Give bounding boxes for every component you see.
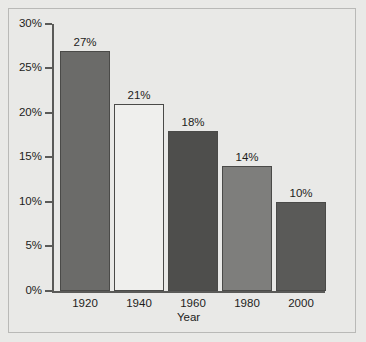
y-tick-25 xyxy=(45,67,52,69)
y-tick-label-0: 0% xyxy=(0,285,42,296)
y-tick-label-5: 5% xyxy=(0,240,42,251)
y-tick-label-10: 10% xyxy=(0,196,42,207)
y-tick-label-20: 20% xyxy=(0,107,42,118)
bar-chart-plot-area: 0% 5% 10% 15% 20% 25% 30% 27% 21% 18% 14… xyxy=(0,0,366,342)
y-tick-30 xyxy=(45,23,52,25)
bar-1980[interactable] xyxy=(222,166,272,291)
x-tick-label-2000: 2000 xyxy=(274,297,328,309)
bar-1920[interactable] xyxy=(60,51,110,291)
y-axis-line xyxy=(52,24,54,293)
bar-value-1980: 14% xyxy=(220,151,274,163)
bar-1960[interactable] xyxy=(168,131,218,291)
bar-value-1940: 21% xyxy=(112,89,166,101)
x-axis-line xyxy=(52,291,325,293)
y-tick-label-30: 30% xyxy=(0,18,42,29)
y-tick-15 xyxy=(45,156,52,158)
bar-1940[interactable] xyxy=(114,104,164,291)
y-tick-label-15: 15% xyxy=(0,151,42,162)
y-tick-20 xyxy=(45,112,52,114)
x-tick-label-1920: 1920 xyxy=(58,297,112,309)
x-tick-label-1940: 1940 xyxy=(112,297,166,309)
chart-screenshot: 0% 5% 10% 15% 20% 25% 30% 27% 21% 18% 14… xyxy=(0,0,366,342)
x-tick-label-1980: 1980 xyxy=(220,297,274,309)
y-tick-0 xyxy=(45,290,52,292)
bar-2000[interactable] xyxy=(276,202,326,291)
x-axis-title: Year xyxy=(52,311,325,323)
bar-value-1920: 27% xyxy=(58,36,112,48)
x-tick-label-1960: 1960 xyxy=(166,297,220,309)
y-tick-10 xyxy=(45,201,52,203)
y-tick-5 xyxy=(45,245,52,247)
bar-value-1960: 18% xyxy=(166,116,220,128)
y-tick-label-25: 25% xyxy=(0,62,42,73)
bar-value-2000: 10% xyxy=(274,187,328,199)
